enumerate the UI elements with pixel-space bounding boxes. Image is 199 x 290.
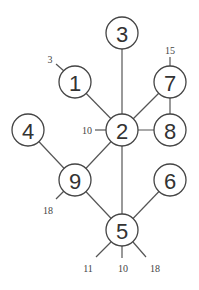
node-8: 8 <box>154 114 186 146</box>
node-label: 7 <box>164 71 176 96</box>
weight-label: 18 <box>150 263 160 274</box>
weight-stub-line <box>56 64 64 71</box>
node-9: 9 <box>59 164 91 196</box>
weight-label: 10 <box>118 263 128 274</box>
node-label: 5 <box>116 219 128 244</box>
weight-label: 3 <box>48 54 53 65</box>
node-4: 4 <box>12 114 44 146</box>
node-label: 8 <box>164 119 176 144</box>
node-label: 4 <box>22 119 34 144</box>
node-label: 9 <box>69 169 81 194</box>
node-label: 2 <box>116 119 128 144</box>
nodes-layer: 317428965 <box>12 17 186 246</box>
weight-label: 18 <box>43 205 53 216</box>
node-2: 2 <box>106 114 138 146</box>
weight-label: 15 <box>165 45 175 56</box>
node-label: 3 <box>116 22 128 47</box>
weight-label: 11 <box>83 263 93 274</box>
node-label: 1 <box>69 71 81 96</box>
weight-stub-line <box>96 242 111 257</box>
weight-label: 10 <box>82 125 92 136</box>
node-7: 7 <box>154 66 186 98</box>
weight-stub-line <box>133 242 146 257</box>
node-1: 1 <box>59 66 91 98</box>
node-5: 5 <box>106 214 138 246</box>
node-label: 6 <box>164 169 176 194</box>
node-3: 3 <box>106 17 138 49</box>
weight-stub-line <box>56 191 64 199</box>
graph-diagram: 3151018111018 317428965 <box>0 0 199 290</box>
node-6: 6 <box>154 164 186 196</box>
